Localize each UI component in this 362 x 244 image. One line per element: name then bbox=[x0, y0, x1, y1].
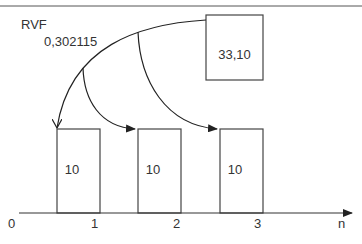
axis-tick-3: 3 bbox=[254, 216, 261, 231]
axis-origin-label: 0 bbox=[8, 216, 15, 231]
rvf-label: RVF bbox=[21, 17, 47, 32]
bar-3-label: 10 bbox=[220, 162, 250, 177]
bar-2-label: 10 bbox=[138, 162, 168, 177]
axis-tick-2: 2 bbox=[173, 216, 180, 231]
source-box-label: 33,10 bbox=[206, 47, 263, 62]
bar-1-label: 10 bbox=[57, 162, 87, 177]
axis-tick-1: 1 bbox=[91, 216, 98, 231]
axis-n-label: n bbox=[338, 216, 345, 231]
rate-label: 0,302115 bbox=[44, 34, 97, 49]
transfer-arc-2 bbox=[83, 68, 135, 129]
